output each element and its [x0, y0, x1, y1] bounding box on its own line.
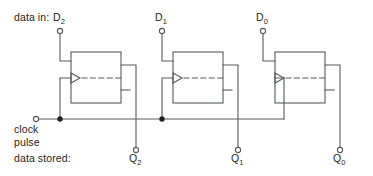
input-label-d1: D1: [155, 11, 167, 28]
q2-output-wire: [121, 65, 136, 148]
junction-dot-clock-stage2: [57, 116, 62, 121]
terminal-d1[interactable]: [159, 28, 164, 33]
input-label-d0: D0: [256, 11, 268, 28]
output-label-q0: Q0: [333, 152, 345, 169]
terminal-clock[interactable]: [33, 116, 38, 121]
clock-pulse-label: clock pulse: [14, 123, 40, 148]
junction-dot-clock-stage1: [159, 116, 164, 121]
output-label-q1: Q1: [231, 152, 243, 169]
clock-branch-stage0: [275, 78, 284, 119]
d1-input-wire: [162, 34, 173, 61]
d2-input-wire: [60, 34, 71, 61]
data-in-label: data in:: [14, 11, 49, 23]
d0-input-wire: [263, 34, 275, 61]
terminal-d0[interactable]: [260, 28, 265, 33]
clock-triangle-stage1: [173, 73, 182, 83]
q1-output-wire: [223, 65, 238, 148]
q0-output-wire: [325, 65, 340, 148]
input-label-d2: D2: [53, 11, 65, 28]
clock-triangle-stage2: [71, 73, 80, 83]
clock-branch-stage2: [60, 78, 71, 119]
data-stored-label: data stored:: [14, 152, 71, 164]
clock-branch-stage1: [162, 78, 173, 119]
diagram-canvas: data in: D2 D1 D0 clock pulse data store…: [0, 0, 373, 176]
terminal-d2[interactable]: [57, 28, 62, 33]
output-label-q2: Q2: [129, 152, 141, 169]
